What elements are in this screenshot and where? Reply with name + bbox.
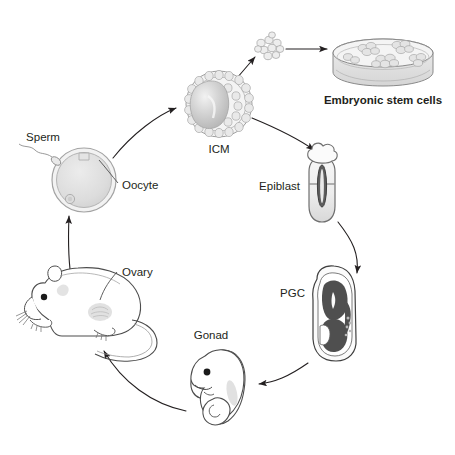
epiblast-label: Epiblast [259,180,301,192]
petri-dish: Embryonic stem cells [324,39,442,106]
oocyte-nucleolus [68,197,72,201]
cavity-lumen [320,169,324,203]
life-cycle-diagram: ICM [0,0,455,455]
epiblast-cap [308,143,337,163]
oocyte-label: Oocyte [122,179,158,191]
pgc-label: PGC [280,287,305,299]
gonad-label: Gonad [194,329,229,341]
polar-body [79,153,89,160]
sperm-label: Sperm [26,131,60,143]
mouse-eye [41,294,47,300]
inner-cell-mass [190,81,229,129]
mouse-ear [48,266,62,281]
embryonic-stem-cells-label: Embryonic stem cells [324,94,442,106]
ovary-label: Ovary [122,266,153,278]
oocyte-cytoplasm [57,153,112,208]
icm-label: ICM [208,143,229,155]
embryo-eye [204,369,211,376]
